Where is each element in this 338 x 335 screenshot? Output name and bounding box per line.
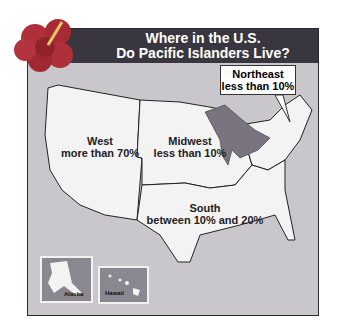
midwest-label: Midwestless than 10% (150, 135, 230, 159)
west-label: Westmore than 70% (60, 135, 140, 159)
alaska-inset: Alaska (40, 256, 93, 303)
hibiscus-flower-icon (14, 19, 73, 72)
northeast-callout: Northeastless than 10% (220, 65, 296, 95)
hawaii-inset: Hawaii (98, 266, 149, 304)
south-label: Southbetween 10% and 20% (145, 202, 265, 226)
